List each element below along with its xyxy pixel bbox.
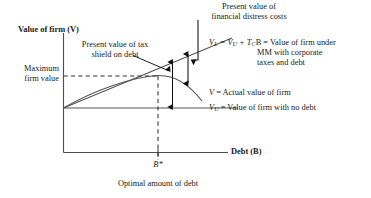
v-legend: V = Actual value of firm (209, 88, 291, 98)
x-axis-title: Debt (B) (231, 147, 261, 157)
firm-value-vs-debt-figure: Value of firm (V) Maximum firm value Pre… (0, 0, 371, 198)
optimal-debt-tick-label: B* (143, 160, 173, 170)
distress-cost-annotation-line1: Present value of (183, 2, 315, 12)
vl-legend-line2: MM with corporate (257, 48, 323, 58)
vl-legend-line3: taxes and debt (257, 58, 305, 68)
maximum-firm-value-label-2: firm value (0, 74, 59, 84)
optimal-debt-caption: Optimal amount of debt (78, 179, 238, 189)
vu-legend: VU = Value of firm with no debt (209, 103, 316, 115)
maximum-firm-value-label: Maximum (0, 64, 59, 74)
tax-shield-annotation-line2: shield on debt (62, 50, 168, 60)
distress-cost-annotation-line2: financial distress costs (183, 12, 315, 22)
actual-value-curve (64, 75, 203, 108)
tax-shield-annotation-line1: Present value of tax (62, 40, 168, 50)
y-axis-title: Value of firm (V) (18, 25, 79, 35)
